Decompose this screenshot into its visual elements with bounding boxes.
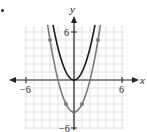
y-axis-arrow-icon <box>71 16 77 23</box>
x-axis-right-arrow-icon <box>132 77 139 83</box>
data-point-marker <box>48 38 52 42</box>
parabola-graph: x y −6 6 6 −6 <box>0 0 147 132</box>
data-point-marker <box>96 38 100 42</box>
x-axis-label: x <box>139 74 145 86</box>
x-tick-label-neg6: −6 <box>20 84 31 95</box>
y-axis-label: y <box>69 3 75 15</box>
y-tick-label-pos6: 6 <box>64 27 69 38</box>
data-point-marker <box>80 102 84 106</box>
data-point-marker <box>72 110 76 114</box>
y-tick-label-neg6: −6 <box>59 123 70 132</box>
data-point-marker <box>64 102 68 106</box>
x-axis-left-arrow-icon <box>9 77 16 83</box>
x-tick-label-pos6: 6 <box>119 84 124 95</box>
